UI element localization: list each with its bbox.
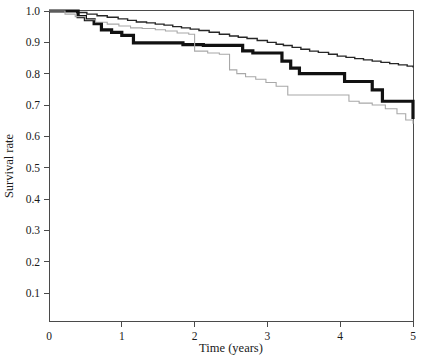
x-tick-label: 3 bbox=[265, 330, 271, 342]
x-axis-tick-group: 012345 bbox=[46, 321, 416, 342]
y-tick-label: 0.5 bbox=[26, 162, 41, 174]
y-tick-label: 0.2 bbox=[26, 256, 41, 268]
y-tick-label: 0.6 bbox=[26, 130, 41, 142]
y-tick-label: 0.1 bbox=[26, 287, 41, 299]
x-axis-title: Time (years) bbox=[199, 341, 263, 355]
y-axis-title: Survival rate bbox=[2, 133, 16, 198]
survival-curve-lower-curve bbox=[49, 11, 413, 124]
x-tick-label: 0 bbox=[46, 330, 52, 342]
x-tick-label: 2 bbox=[192, 330, 198, 342]
y-tick-label: 0.3 bbox=[26, 224, 41, 236]
survival-curve-upper-curve bbox=[49, 11, 413, 67]
y-axis-tick-group: 0.10.20.30.40.50.60.70.80.91.0 bbox=[26, 5, 49, 299]
y-tick-label: 0.7 bbox=[26, 99, 41, 111]
chart-canvas: 0.10.20.30.40.50.60.70.80.91.0 012345 Ti… bbox=[0, 0, 425, 359]
y-tick-label: 0.4 bbox=[26, 193, 41, 205]
y-tick-label: 0.8 bbox=[26, 68, 41, 80]
survival-curve-group bbox=[49, 11, 413, 124]
survival-curve-thick-curve bbox=[49, 11, 413, 119]
survival-curve-figure: 0.10.20.30.40.50.60.70.80.91.0 012345 Ti… bbox=[0, 0, 425, 359]
y-tick-label: 0.9 bbox=[26, 36, 41, 48]
x-tick-label: 4 bbox=[337, 330, 343, 342]
y-tick-label: 1.0 bbox=[26, 5, 41, 17]
x-tick-label: 5 bbox=[410, 330, 416, 342]
x-tick-label: 1 bbox=[119, 330, 125, 342]
